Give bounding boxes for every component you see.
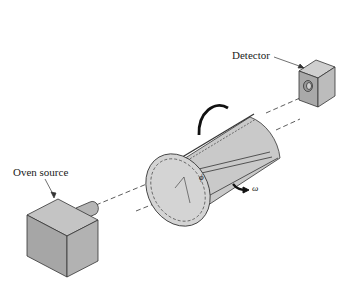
detector-pointer [274,57,304,68]
phi-symbol: ϕ [199,172,204,182]
omega-arrow [233,184,249,193]
velocity-selector-diagram [0,0,357,290]
omega-symbol: ω [252,183,258,193]
rotating-cylinder [133,114,280,238]
oven-source [27,199,98,277]
oven-source-pointer [45,179,56,198]
detector [299,60,335,107]
detector-label: Detector [232,49,270,61]
rotation-arrow [199,106,228,135]
oven-source-label: Oven source [13,166,68,178]
